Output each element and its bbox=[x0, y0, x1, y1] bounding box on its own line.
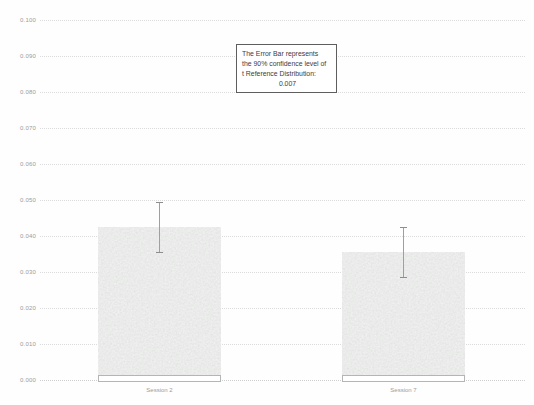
y-axis-tick-label: 0.100 bbox=[8, 17, 36, 23]
bar-base-session-2 bbox=[98, 375, 221, 382]
error-bar-cap-bottom-session-7 bbox=[400, 277, 407, 278]
bar-base-session-7 bbox=[342, 375, 465, 382]
x-axis-label-session-2: Session 2 bbox=[115, 387, 205, 393]
error-bar-cap-top-session-7 bbox=[400, 227, 407, 228]
y-axis-tick-label: 0.030 bbox=[8, 269, 36, 275]
gridline bbox=[40, 164, 525, 165]
error-bar-session-7 bbox=[403, 227, 404, 277]
y-axis-tick-label: 0.040 bbox=[8, 233, 36, 239]
y-axis-tick-label: 0.020 bbox=[8, 305, 36, 311]
error-bar-session-2 bbox=[159, 202, 160, 252]
y-axis-tick-label: 0.060 bbox=[8, 161, 36, 167]
gridline bbox=[40, 200, 525, 201]
gridline bbox=[40, 128, 525, 129]
annotation-line-1: The Error Bar represents bbox=[242, 49, 333, 59]
y-axis-tick-label: 0.090 bbox=[8, 53, 36, 59]
y-axis-tick-label: 0.010 bbox=[8, 341, 36, 347]
x-axis-label-session-7: Session 7 bbox=[359, 387, 449, 393]
annotation-box: The Error Bar represents the 90% confide… bbox=[236, 44, 337, 93]
annotation-value: 0.007 bbox=[242, 79, 333, 89]
annotation-line-2: the 90% confidence level of bbox=[242, 59, 333, 69]
error-bar-cap-bottom-session-2 bbox=[156, 252, 163, 253]
error-bar-cap-top-session-2 bbox=[156, 202, 163, 203]
y-axis-tick-label: 0.050 bbox=[8, 197, 36, 203]
gridline bbox=[40, 20, 525, 21]
y-axis-tick-label: 0.000 bbox=[8, 377, 36, 383]
bar-chart: 0.1000.0900.0800.0700.0600.0500.0400.030… bbox=[0, 0, 534, 405]
y-axis-tick-label: 0.080 bbox=[8, 89, 36, 95]
annotation-line-3: t Reference Distribution: bbox=[242, 69, 333, 79]
y-axis-tick-label: 0.070 bbox=[8, 125, 36, 131]
